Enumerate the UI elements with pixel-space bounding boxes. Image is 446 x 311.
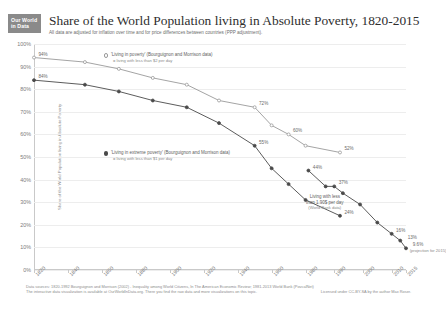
data-point[interactable] <box>307 169 310 172</box>
legend-sublabel-2: = living with less than $1 per day <box>113 156 172 161</box>
plot-area: Share of the World Population living in … <box>34 44 406 270</box>
our-world-in-data-logo: Our World in Data <box>8 14 41 33</box>
projection-note: (projection for 2015) <box>410 248 446 253</box>
data-point[interactable] <box>376 221 379 224</box>
data-point-label: 72% <box>259 101 268 106</box>
series-line-0 <box>34 58 340 153</box>
y-axis-tick-label: 50% <box>20 154 31 160</box>
y-axis-tick-label: 30% <box>20 199 31 205</box>
y-axis-tick-label: 90% <box>20 64 31 70</box>
data-point-label: 94% <box>38 51 47 56</box>
data-point-label: 60% <box>293 128 302 133</box>
data-point[interactable] <box>287 183 290 186</box>
data-point[interactable] <box>333 185 336 188</box>
data-point-label: 52% <box>344 146 353 151</box>
data-point[interactable] <box>405 247 408 250</box>
gridline <box>34 270 406 271</box>
data-point[interactable] <box>399 239 402 242</box>
data-point[interactable] <box>287 133 290 136</box>
footer-license: Licensed under CC-BY-SA by the author Ma… <box>321 289 411 294</box>
chart-header: Our World in Data Share of the World Pop… <box>8 13 414 39</box>
data-point-label: 9.6% <box>413 242 423 247</box>
x-axis-tick-label: 2015 <box>406 265 418 277</box>
data-point[interactable] <box>253 106 256 109</box>
y-axis-tick-label: 80% <box>20 86 31 92</box>
data-point[interactable] <box>324 185 327 188</box>
data-point[interactable] <box>83 83 86 86</box>
y-axis-tick-label: 10% <box>20 244 31 250</box>
data-point[interactable] <box>151 76 154 79</box>
data-point[interactable] <box>117 90 120 93</box>
data-point[interactable] <box>359 203 362 206</box>
data-point[interactable] <box>117 67 120 70</box>
series-line-1 <box>34 80 340 216</box>
annotation-line-1: Living with less <box>306 194 344 200</box>
chart-subtitle: All data are adjusted for inflation over… <box>49 30 262 36</box>
data-point-label: 55% <box>259 139 268 144</box>
data-point[interactable] <box>253 144 256 147</box>
annotation-world-bank: Living with less than 1.90$ per day (Wor… <box>306 194 344 211</box>
data-point[interactable] <box>33 56 36 59</box>
y-axis-tick-label: 70% <box>20 109 31 115</box>
data-point[interactable] <box>151 99 154 102</box>
data-point-label: 84% <box>38 74 47 79</box>
y-axis-tick-label: 20% <box>20 222 31 228</box>
data-point[interactable] <box>185 106 188 109</box>
data-point[interactable] <box>338 214 341 217</box>
series-lines <box>34 44 406 270</box>
annotation-line-3: (World Bank data) <box>306 205 344 211</box>
data-point-label: 16% <box>396 227 405 232</box>
data-point[interactable] <box>33 79 36 82</box>
data-point[interactable] <box>390 232 393 235</box>
data-point-label: 44% <box>313 164 322 169</box>
y-axis-tick-label: 100% <box>17 41 31 47</box>
data-point[interactable] <box>304 144 307 147</box>
y-axis-tick-label: 40% <box>20 177 31 183</box>
data-point[interactable] <box>270 124 273 127</box>
data-point[interactable] <box>338 151 341 154</box>
data-point[interactable] <box>218 122 221 125</box>
y-axis-tick-label: 60% <box>20 131 31 137</box>
chart-footer: Data sources: 1820-1992 Bourguignon and … <box>26 284 416 295</box>
data-point[interactable] <box>185 83 188 86</box>
data-point[interactable] <box>218 99 221 102</box>
logo-line-2: in Data <box>11 23 39 29</box>
data-point[interactable] <box>270 167 273 170</box>
data-point[interactable] <box>83 61 86 64</box>
data-point-label: 37% <box>339 180 348 185</box>
y-axis-tick-label: 0% <box>23 267 31 273</box>
legend-sublabel-1: = living with less than $2 per day <box>113 58 172 63</box>
data-point-label: 24% <box>344 209 353 214</box>
data-point-label: 13% <box>408 234 417 239</box>
chart-title: Share of the World Population living in … <box>49 13 419 28</box>
